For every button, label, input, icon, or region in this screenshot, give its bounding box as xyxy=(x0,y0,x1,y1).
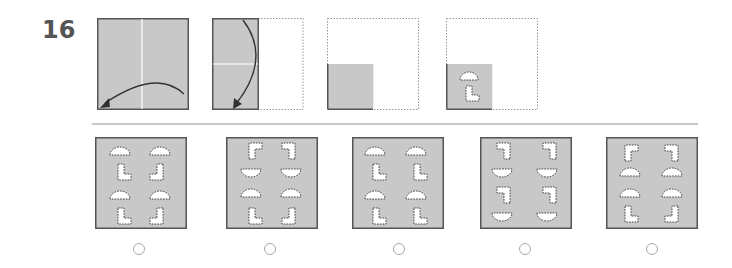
option-b-figure xyxy=(226,137,318,229)
option-e-figure xyxy=(606,137,698,229)
option-c-radio[interactable] xyxy=(393,243,405,255)
fold-step-2 xyxy=(212,18,304,110)
fold-step-3 xyxy=(327,18,419,110)
option-c-figure xyxy=(352,137,444,229)
option-d-figure xyxy=(480,137,572,229)
option-a-figure xyxy=(95,137,187,229)
option-b-radio[interactable] xyxy=(264,243,276,255)
fold-step-4 xyxy=(446,18,538,110)
fold-step-1 xyxy=(97,18,189,110)
option-e-radio[interactable] xyxy=(646,243,658,255)
option-a-radio[interactable] xyxy=(133,243,145,255)
divider xyxy=(92,123,698,125)
option-d-radio[interactable] xyxy=(519,243,531,255)
question-number: 16 xyxy=(42,16,75,44)
